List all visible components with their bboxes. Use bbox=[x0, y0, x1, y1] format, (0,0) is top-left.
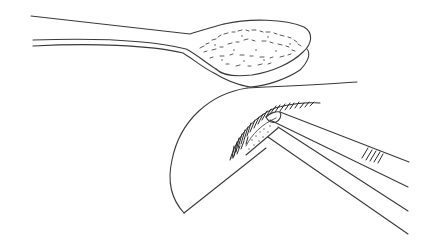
forceps-arm-lower-bottom bbox=[268, 137, 408, 234]
spoon-bowl-rim bbox=[216, 20, 311, 76]
paper-sheet bbox=[170, 82, 357, 213]
illustration-drawing bbox=[0, 0, 437, 251]
forceps bbox=[266, 112, 409, 234]
paper-bottom-edge bbox=[184, 148, 266, 213]
spoon-handle-edge-1 bbox=[33, 39, 216, 69]
forceps-arm-upper-top bbox=[280, 112, 409, 162]
spoon bbox=[31, 16, 311, 87]
illustration-canvas: line drawing of a spoon holding powder, … bbox=[0, 0, 437, 251]
spoon-handle-edge-2 bbox=[33, 45, 250, 87]
spoon-handle-top bbox=[31, 16, 224, 34]
spoon-powder bbox=[200, 30, 301, 66]
forceps-arm-lower-top bbox=[278, 127, 408, 211]
